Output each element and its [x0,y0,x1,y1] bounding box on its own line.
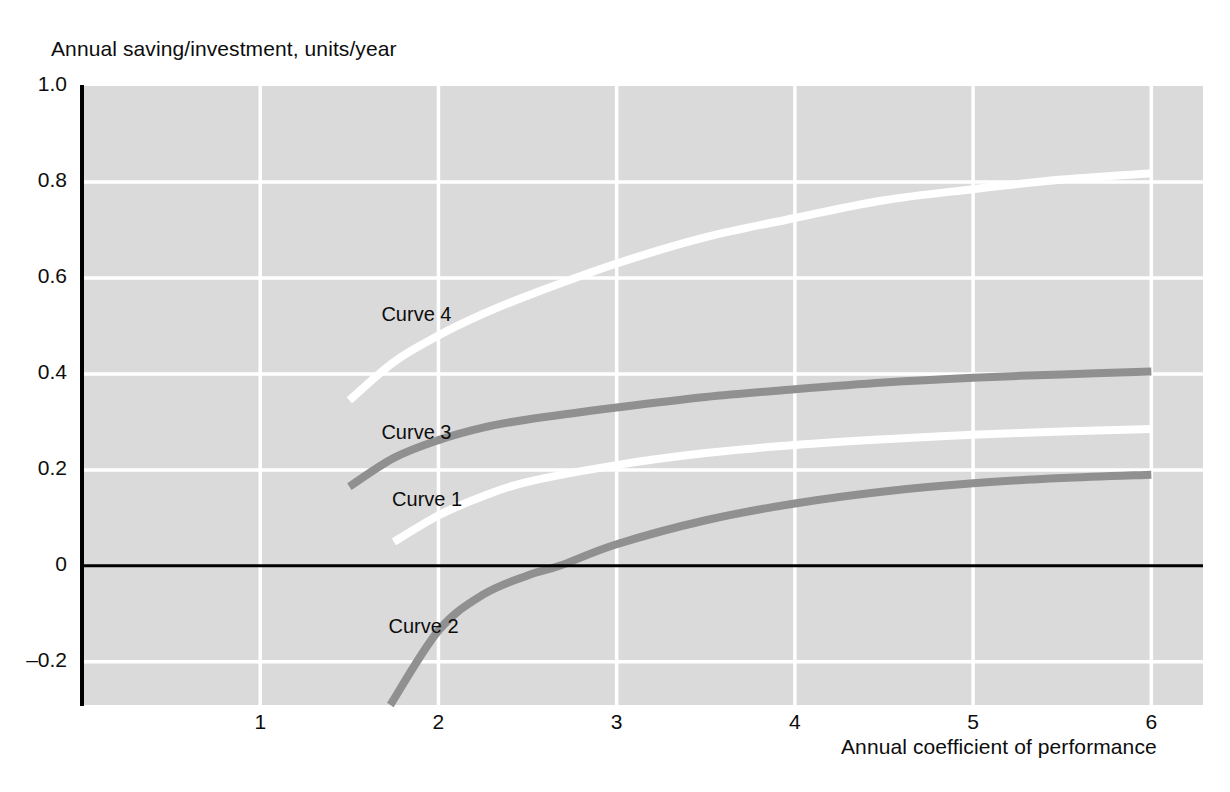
chart-figure: Annual saving/investment, units/year Ann… [0,0,1230,792]
x-tick-label: 3 [597,710,637,734]
x-tick-label: 1 [240,710,280,734]
y-tick-label: 0.8 [38,168,67,192]
curve-label-2: Curve 2 [389,615,459,638]
curve-label-4: Curve 4 [381,303,451,326]
x-tick-label: 4 [775,710,815,734]
y-tick-label: 1.0 [38,72,67,96]
y-tick-label: 0.4 [38,360,67,384]
y-tick-label: 0 [55,552,67,576]
x-tick-label: 2 [418,710,458,734]
y-tick-label: 0.2 [38,456,67,480]
curve-label-1: Curve 1 [392,488,462,511]
x-axis-title: Annual coefficient of performance [841,735,1157,759]
x-tick-label: 6 [1131,710,1171,734]
curve-label-3: Curve 3 [381,421,451,444]
y-tick-label: –0.2 [26,648,67,672]
x-tick-label: 5 [953,710,993,734]
y-tick-label: 0.6 [38,264,67,288]
plot-area [0,0,1230,792]
